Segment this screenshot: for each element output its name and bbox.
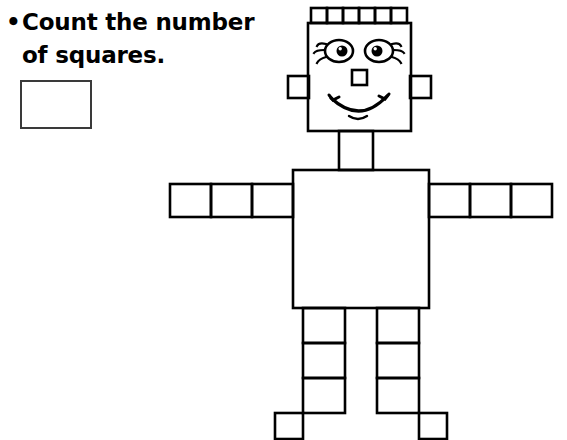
bullet-icon: • xyxy=(6,6,22,39)
foot-squares xyxy=(275,413,447,439)
right-leg-squares xyxy=(377,308,419,413)
left-arm-squares xyxy=(170,184,293,217)
instruction-line-2: of squares. xyxy=(6,39,282,72)
right-arm-squares xyxy=(429,184,552,217)
answer-box[interactable] xyxy=(20,80,92,129)
nose-square xyxy=(352,70,367,85)
worksheet-page: •Count the number of squares. xyxy=(0,0,567,440)
hair-squares xyxy=(311,8,407,23)
head-square xyxy=(308,23,411,131)
ear-squares xyxy=(288,76,431,98)
instruction-text-1: Count the number xyxy=(22,9,254,35)
left-leg-squares xyxy=(303,308,345,413)
torso-square xyxy=(293,170,429,308)
mouth-smile xyxy=(329,94,389,119)
left-eye-icon xyxy=(314,40,353,63)
neck-rectangle xyxy=(339,131,373,170)
right-eye-icon xyxy=(365,40,404,63)
instruction-line-1: •Count the number xyxy=(6,6,282,39)
instruction-block: •Count the number of squares. xyxy=(6,6,282,72)
